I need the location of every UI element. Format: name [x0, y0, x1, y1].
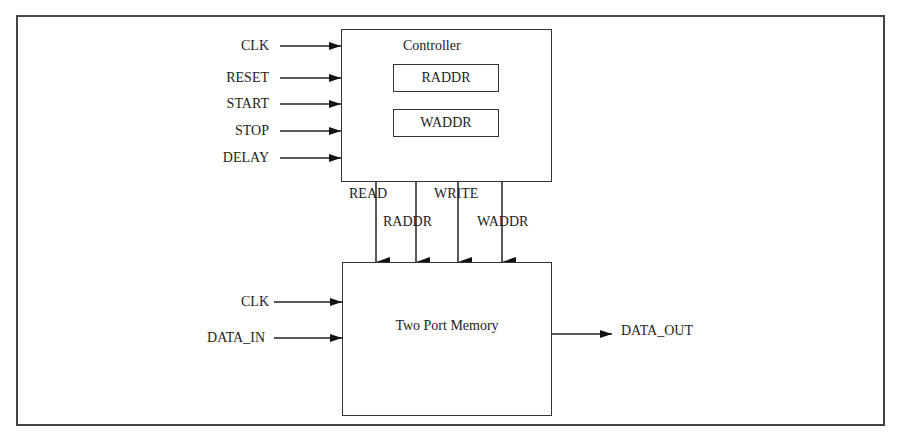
signal-read: READ	[349, 186, 387, 202]
signal-write: WRITE	[434, 186, 478, 202]
input-clk-controller: CLK	[241, 38, 269, 54]
input-data-in: DATA_IN	[207, 330, 265, 346]
controller-title: Controller	[403, 38, 461, 54]
signal-waddr: WADDR	[477, 214, 528, 230]
signal-raddr: RADDR	[383, 214, 432, 230]
raddr-register-label: RADDR	[393, 70, 499, 86]
output-data-out: DATA_OUT	[621, 323, 693, 339]
input-reset: RESET	[226, 70, 269, 86]
memory-block	[342, 262, 552, 416]
input-stop: STOP	[235, 123, 269, 139]
memory-title: Two Port Memory	[342, 318, 552, 334]
waddr-register-label: WADDR	[393, 115, 499, 131]
input-start: START	[227, 96, 269, 112]
input-clk-memory: CLK	[241, 294, 269, 310]
input-delay: DELAY	[223, 150, 269, 166]
